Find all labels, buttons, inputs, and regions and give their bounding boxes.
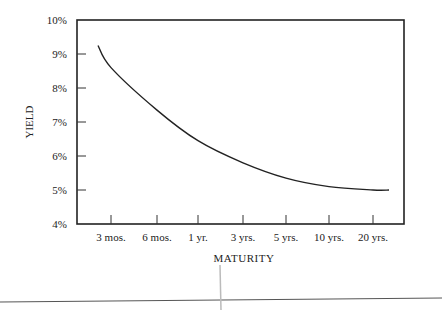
- x-axis-label: MATURITY: [214, 252, 275, 264]
- yield-curve-chart: 4% 5% 6% 7% 8% 9% 10% YIELD 3 mos. 6 mos…: [0, 0, 442, 310]
- x-tick-label: 20 yrs.: [358, 231, 388, 243]
- y-tick-label: 10%: [47, 14, 67, 26]
- y-axis-label: YIELD: [23, 105, 35, 138]
- page-crease: [220, 265, 221, 310]
- y-tick-label: 5%: [52, 184, 67, 196]
- x-tick-label: 1 yr.: [188, 231, 208, 243]
- x-tick-label: 3 yrs.: [231, 231, 256, 243]
- y-tick-label: 6%: [52, 150, 67, 162]
- y-axis-ticks: [77, 54, 86, 190]
- y-tick-label: 7%: [52, 116, 67, 128]
- yield-curve-line: [98, 46, 389, 191]
- x-axis-ticks: [111, 215, 373, 224]
- x-tick-label: 6 mos.: [142, 231, 172, 243]
- x-tick-label: 10 yrs.: [314, 231, 344, 243]
- y-tick-label: 8%: [52, 82, 67, 94]
- x-tick-label: 5 yrs.: [274, 231, 299, 243]
- y-tick-label: 9%: [52, 48, 67, 60]
- y-axis-tick-labels: 4% 5% 6% 7% 8% 9% 10%: [47, 14, 67, 230]
- x-tick-label: 3 mos.: [96, 231, 126, 243]
- plot-frame: [77, 20, 404, 224]
- y-tick-label: 4%: [52, 218, 67, 230]
- x-axis-tick-labels: 3 mos. 6 mos. 1 yr. 3 yrs. 5 yrs. 10 yrs…: [96, 231, 388, 243]
